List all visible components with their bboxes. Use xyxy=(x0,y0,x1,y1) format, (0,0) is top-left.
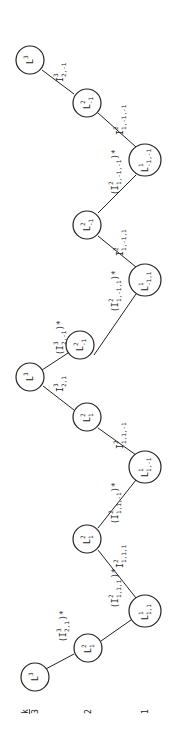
svg-text:1,1,1: 1,1,1 xyxy=(120,545,127,563)
node-sup: 1 xyxy=(137,163,144,167)
edge-label-0: (I 3 2,1 )* xyxy=(55,610,70,642)
diagram-svg: L 3 L 2 1 L 1 1,1 L 2 1 L 1 1,-1 xyxy=(0,0,173,737)
svg-text:2: 2 xyxy=(107,510,114,514)
svg-text:(I: (I xyxy=(56,345,65,355)
nodes xyxy=(16,46,161,691)
svg-text:2: 2 xyxy=(107,594,114,598)
node-sub: 1,-1 xyxy=(145,457,152,472)
svg-text:(I: (I xyxy=(59,632,68,642)
node-sub: 1 xyxy=(87,413,94,417)
svg-text:3: 3 xyxy=(52,383,59,387)
svg-text:)*: )* xyxy=(111,568,120,578)
edge-label-4: I 2 1,1,-1 xyxy=(112,422,127,449)
axis-title: k xyxy=(21,709,30,714)
svg-text:2: 2 xyxy=(112,247,119,251)
svg-text:2,1: 2,1 xyxy=(60,376,67,387)
node-sup: 3 xyxy=(22,55,29,59)
svg-text:2: 2 xyxy=(107,298,114,302)
edge-label-2: I 2 1,1,1 xyxy=(112,545,127,568)
svg-text:1,1,-1: 1,1,-1 xyxy=(120,422,127,444)
node-sub: -1,-1 xyxy=(145,149,152,167)
axis: k 3 2 1 xyxy=(21,709,150,714)
node-sup: 2 xyxy=(79,222,86,226)
svg-text:1,1,1: 1,1,1 xyxy=(115,580,122,598)
node-sup: 1 xyxy=(137,468,144,472)
node-sup: 3 xyxy=(22,372,29,376)
svg-text:2: 2 xyxy=(112,559,119,563)
svg-text:2: 2 xyxy=(112,126,119,130)
svg-text:3: 3 xyxy=(52,341,59,345)
node-sup: 1 xyxy=(137,611,144,615)
edge-label-5: I 3 2,1 xyxy=(52,376,67,392)
node-sub: 1 xyxy=(88,644,95,648)
axis-level-2: 2 xyxy=(84,709,93,714)
node-sub: -1,1 xyxy=(145,271,152,286)
axis-level-1: 1 xyxy=(141,709,150,714)
node-sub: 1,1 xyxy=(145,604,152,615)
node-sub: -1 xyxy=(87,218,94,226)
svg-text:2,1: 2,1 xyxy=(63,621,70,632)
edge-1 xyxy=(101,620,131,641)
svg-text:1,1,-1: 1,1,-1 xyxy=(115,492,122,514)
svg-text:2,-1: 2,-1 xyxy=(60,62,67,77)
svg-text:1,-1,1: 1,-1,1 xyxy=(120,229,127,251)
node-sub: -1 xyxy=(80,338,87,346)
edge-label-3: (I 2 1,1,-1 )* xyxy=(107,482,122,524)
node-sub: -1 xyxy=(87,96,94,104)
svg-text:2,-1: 2,-1 xyxy=(60,330,67,345)
svg-text:1,-1,-1: 1,-1,-1 xyxy=(120,104,127,130)
svg-text:2: 2 xyxy=(107,181,114,185)
node-sub: 1 xyxy=(87,535,94,539)
node-sup: 2 xyxy=(79,100,86,104)
svg-text:)*: )* xyxy=(111,482,120,492)
node-sup: 2 xyxy=(79,535,86,539)
axis-level-3: 3 xyxy=(31,709,40,714)
svg-text:3: 3 xyxy=(55,628,62,632)
node-sup: 3 xyxy=(27,672,34,676)
svg-text:1,-1,1: 1,-1,1 xyxy=(115,280,122,302)
node-sup: 2 xyxy=(80,644,87,648)
svg-text:(I: (I xyxy=(111,598,120,608)
edge-label-10: I 2 1,-1,-1 xyxy=(112,104,127,135)
edge-label-9: (I 2 1,-1,-1 )* xyxy=(107,149,122,195)
svg-text:3: 3 xyxy=(52,73,59,77)
svg-text:)*: )* xyxy=(111,149,120,159)
svg-text:)*: )* xyxy=(56,320,65,330)
lattice-diagram: L 3 L 2 1 L 1 1,1 L 2 1 L 1 1,-1 xyxy=(0,0,173,737)
node-sup: 2 xyxy=(72,342,79,346)
edge-label-1: (I 2 1,1,1 )* xyxy=(107,568,122,608)
svg-text:1,-1,-1: 1,-1,-1 xyxy=(115,159,122,185)
svg-text:)*: )* xyxy=(59,610,68,620)
svg-text:)*: )* xyxy=(111,270,120,280)
node-sup: 1 xyxy=(137,282,144,286)
node-labels: L 3 L 2 1 L 1 1,1 L 2 1 L 1 1,-1 xyxy=(22,55,152,681)
svg-text:(I: (I xyxy=(111,514,120,524)
edge-label-7: (I 2 1,-1,1 )* xyxy=(107,270,122,312)
svg-text:2: 2 xyxy=(112,440,119,444)
svg-text:(I: (I xyxy=(111,302,120,312)
node-sup: 2 xyxy=(79,413,86,417)
edge-label-8: I 2 1,-1,1 xyxy=(112,229,127,256)
edge-label-6: (I 3 2,-1 )* xyxy=(52,320,67,355)
svg-text:(I: (I xyxy=(111,185,120,195)
